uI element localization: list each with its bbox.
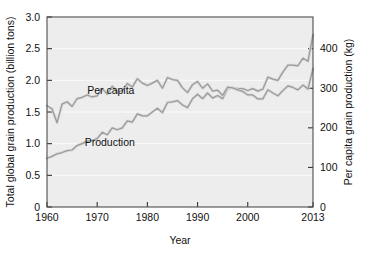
- chart-figure: 00.51.01.52.02.53.0 0100200300400 196019…: [0, 0, 366, 254]
- series-annotation-production: Production: [85, 136, 135, 148]
- left-tick-label: 1.5: [25, 106, 40, 118]
- right-tick-label: 300: [320, 82, 338, 94]
- grain-production-chart: 00.51.01.52.02.53.0 0100200300400 196019…: [0, 0, 366, 254]
- left-tick-label: 1.0: [25, 137, 40, 149]
- right-axis-title: Per capita grain production (kg): [342, 39, 354, 186]
- x-tick-label: 1990: [186, 211, 210, 223]
- x-tick-label: 1970: [86, 211, 110, 223]
- x-tick-label: 1980: [136, 211, 160, 223]
- left-tick-label: 3.0: [25, 11, 40, 23]
- x-tick-label: 2000: [236, 211, 260, 223]
- x-axis-title: Year: [169, 234, 191, 246]
- left-tick-label: 2.5: [25, 42, 40, 54]
- left-tick-label: 0.5: [25, 169, 40, 181]
- left-axis-title: Total global grain production (billion t…: [4, 17, 16, 208]
- x-tick-label: 1960: [35, 211, 59, 223]
- right-tick-label: 400: [320, 42, 338, 54]
- x-tick-label: 2013: [301, 211, 325, 223]
- series-annotation-per-capita: Per capita: [87, 84, 134, 96]
- left-tick-label: 2.0: [25, 74, 40, 86]
- right-tick-label: 200: [320, 121, 338, 133]
- right-tick-label: 100: [320, 161, 338, 173]
